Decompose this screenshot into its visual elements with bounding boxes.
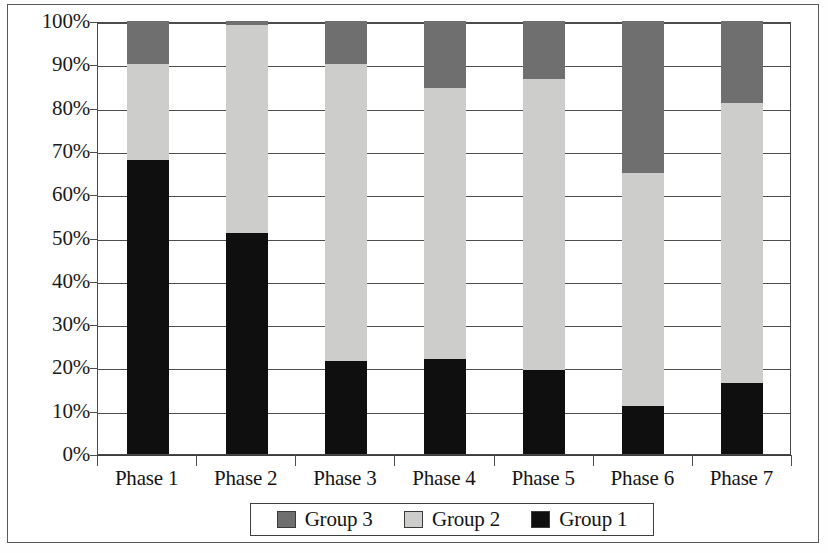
- x-axis-label-3: Phase 3: [290, 466, 400, 490]
- bar-3: [325, 21, 367, 454]
- y-axis-label-50: 50%: [12, 228, 90, 249]
- bar-segment-group2: [721, 103, 763, 382]
- y-axis-label-70: 70%: [12, 141, 90, 162]
- bar-segment-group2: [523, 79, 565, 369]
- y-axis-label-10: 10%: [12, 401, 90, 422]
- bar-segment-group3: [523, 21, 565, 79]
- legend-swatch-icon: [277, 511, 296, 528]
- legend-item-label: Group 3: [305, 509, 373, 530]
- x-axis-tick: [394, 455, 395, 466]
- x-axis-tick: [196, 455, 197, 466]
- y-axis-label-60: 60%: [12, 184, 90, 205]
- plot-area: [97, 22, 791, 455]
- bar-segment-group1: [325, 361, 367, 454]
- bar-6: [622, 21, 664, 454]
- x-axis-tick: [97, 455, 98, 466]
- bar-5: [523, 21, 565, 454]
- x-axis-label-5: Phase 5: [488, 466, 598, 490]
- legend-item-group-1[interactable]: Group 1: [531, 509, 627, 530]
- y-axis-label-90: 90%: [12, 54, 90, 75]
- bar-segment-group2: [226, 25, 268, 233]
- bar-7: [721, 21, 763, 454]
- bar-2: [226, 21, 268, 454]
- bar-segment-group1: [721, 383, 763, 454]
- bar-segment-group2: [622, 173, 664, 407]
- bar-segment-group1: [127, 160, 169, 454]
- y-axis-label-20: 20%: [12, 357, 90, 378]
- bar-segment-group1: [622, 406, 664, 454]
- bar-segment-group1: [424, 359, 466, 454]
- legend: Group 3Group 2Group 1: [250, 503, 654, 536]
- x-axis-label-4: Phase 4: [389, 466, 499, 490]
- y-axis-label-100: 100%: [12, 11, 90, 32]
- bar-segment-group2: [325, 64, 367, 361]
- x-axis-label-7: Phase 7: [686, 466, 796, 490]
- x-axis-label-2: Phase 2: [191, 466, 301, 490]
- x-axis-label-1: Phase 1: [92, 466, 202, 490]
- legend-swatch-icon: [531, 511, 550, 528]
- legend-item-label: Group 1: [559, 509, 627, 530]
- legend-item-label: Group 2: [432, 509, 500, 530]
- x-axis-tick: [692, 455, 693, 466]
- x-axis-label-6: Phase 6: [587, 466, 697, 490]
- bar-1: [127, 21, 169, 454]
- x-axis-tick: [791, 455, 792, 466]
- bar-segment-group3: [127, 21, 169, 64]
- x-axis-line: [97, 455, 791, 456]
- x-axis-tick: [295, 455, 296, 466]
- x-axis-tick: [593, 455, 594, 466]
- bar-segment-group1: [523, 370, 565, 454]
- x-axis-tick: [494, 455, 495, 466]
- y-axis-label-30: 30%: [12, 314, 90, 335]
- bar-segment-group3: [226, 21, 268, 25]
- legend-swatch-icon: [404, 511, 423, 528]
- legend-item-group-2[interactable]: Group 2: [404, 509, 500, 530]
- bar-segment-group2: [424, 88, 466, 359]
- y-axis-label-40: 40%: [12, 271, 90, 292]
- chart-figure: 100% 90% 80% 70% 60% 50% 40% 30% 20% 10%…: [0, 0, 828, 553]
- y-axis: 100% 90% 80% 70% 60% 50% 40% 30% 20% 10%…: [4, 22, 90, 455]
- y-axis-label-0: 0%: [12, 444, 90, 465]
- bar-segment-group3: [622, 21, 664, 173]
- bar-4: [424, 21, 466, 454]
- bar-segment-group1: [226, 233, 268, 454]
- legend-item-group-3[interactable]: Group 3: [277, 509, 373, 530]
- bar-segment-group3: [721, 21, 763, 103]
- bar-segment-group3: [424, 21, 466, 88]
- bars-layer: [98, 23, 790, 454]
- bar-segment-group2: [127, 64, 169, 159]
- bar-segment-group3: [325, 21, 367, 64]
- y-axis-label-80: 80%: [12, 98, 90, 119]
